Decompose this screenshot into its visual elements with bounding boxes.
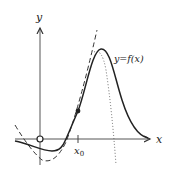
function-curve: [15, 49, 148, 151]
origin-open-circle: [37, 136, 43, 142]
taylor-approximation-diagram: y x x0 y=f(x): [0, 0, 170, 175]
point-at-x0-dot: [76, 109, 81, 114]
curve-label: y=f(x): [113, 53, 144, 64]
y-axis-label: y: [35, 11, 43, 24]
x0-tick-label: x0: [74, 145, 84, 158]
x-axis-label: x: [156, 133, 163, 146]
quadratic-approximation-curve: [15, 30, 97, 161]
